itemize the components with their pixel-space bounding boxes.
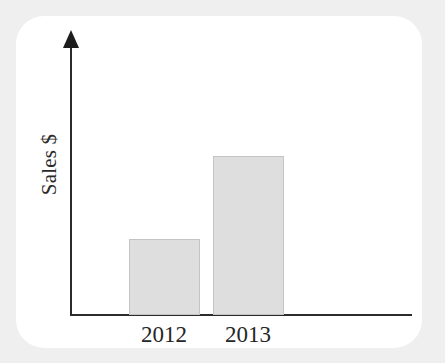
bar-chart-plot-area: Sales $ 2012 2013 — [16, 16, 422, 348]
bar-2013 — [213, 156, 284, 315]
x-tick-label-2013: 2013 — [188, 322, 308, 348]
y-axis-title: Sales $ — [37, 110, 62, 220]
y-axis-line — [70, 40, 72, 315]
chart-card: Sales $ 2012 2013 — [16, 16, 422, 348]
arrow-up-icon — [63, 30, 79, 48]
bar-2012 — [129, 239, 200, 315]
